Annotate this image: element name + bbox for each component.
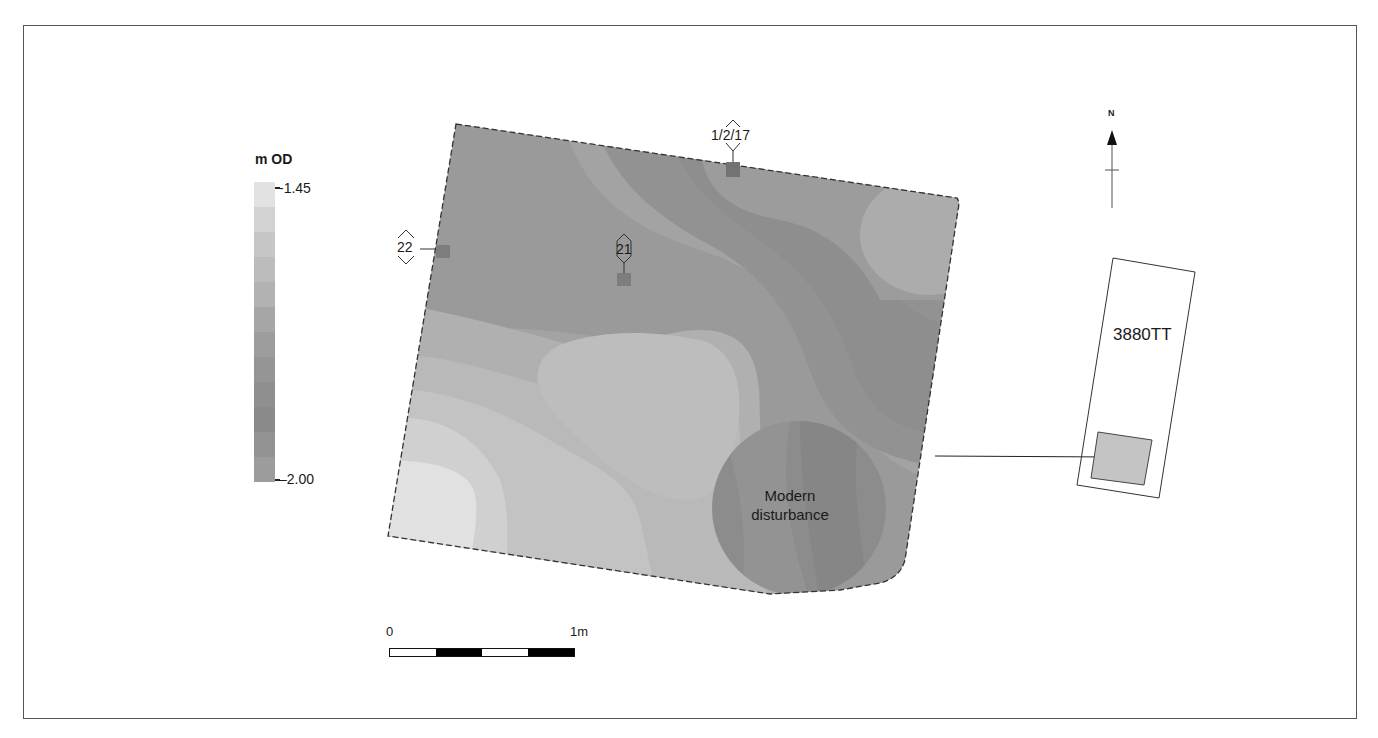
sample-point-21[interactable] — [617, 273, 631, 286]
trench-label: 3880TT — [1113, 325, 1172, 345]
scale-segment-2 — [436, 649, 482, 656]
scale-end-label: 1m — [570, 624, 588, 639]
elevation-contours — [380, 110, 1000, 610]
disturbance-label-line2: disturbance — [740, 505, 840, 524]
sample-point-22[interactable] — [436, 245, 450, 258]
disturbance-label-line1: Modern — [740, 486, 840, 505]
north-label: N — [1108, 108, 1115, 118]
point-label-21: 21 — [616, 241, 632, 257]
modern-disturbance-label: Modern disturbance — [740, 486, 840, 524]
trench-area-highlight — [1091, 432, 1152, 485]
scale-start-label: 0 — [386, 624, 393, 639]
scale-segment-3 — [482, 649, 528, 656]
scale-bar — [389, 648, 575, 657]
scale-segment-4 — [528, 649, 574, 656]
scale-segment-1 — [390, 649, 436, 656]
contour-map — [0, 0, 1378, 738]
sample-point-1-2-17[interactable] — [726, 162, 740, 177]
north-arrow-icon — [1107, 130, 1117, 145]
location-pointer-line — [935, 456, 1112, 457]
point-label-22: 22 — [397, 239, 413, 255]
point-label-1-2-17: 1/2/17 — [711, 127, 750, 143]
